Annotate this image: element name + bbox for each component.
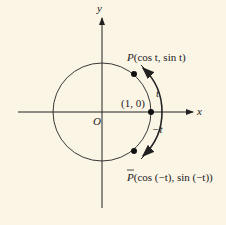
arc-t-label: t	[156, 88, 159, 99]
point-p	[131, 71, 137, 77]
arc-minus-t-label: −t	[152, 124, 162, 135]
unit-circle-diagram	[0, 0, 226, 225]
y-axis-label: y	[97, 3, 102, 14]
p-label: P(cos t, sin t)	[127, 52, 186, 63]
p-bar-label: P(cos (−t), sin (−t))	[127, 172, 213, 183]
unit-point-label: (1, 0)	[121, 98, 145, 109]
x-axis-label: x	[197, 106, 202, 117]
origin-label: O	[93, 116, 101, 127]
point-p-bar	[131, 148, 137, 154]
point-1-0	[148, 109, 154, 115]
